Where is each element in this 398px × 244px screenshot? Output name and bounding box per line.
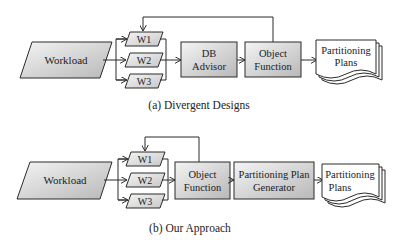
caption-b: (b) Our Approach: [149, 222, 231, 235]
w3-label: W3: [138, 196, 152, 207]
db-advisor-node: DB Advisor: [181, 42, 237, 77]
object-function-node: Object Function: [245, 42, 301, 77]
objfn-label-line1: Object: [259, 48, 287, 59]
objfn-label-line1: Object: [189, 169, 217, 180]
workload-node: Workload: [20, 42, 112, 78]
w2-node: W2: [125, 53, 163, 67]
caption-a: (a) Divergent Designs: [148, 99, 250, 112]
w1-node: W1: [126, 152, 165, 166]
diagram-our-approach: Workload W1 W2 W3 Object Function: [17, 137, 385, 235]
diagram-divergent-designs: Workload W1 W2 W3 DB Advisor: [20, 17, 382, 112]
w2-label: W2: [137, 55, 151, 66]
partitioning-plans-document: Partitioning Plans: [322, 164, 385, 207]
advisor-label-line2: Advisor: [192, 61, 226, 72]
workload-node: Workload: [17, 162, 112, 199]
w3-label: W3: [137, 76, 151, 87]
objfn-label-line2: Function: [184, 182, 222, 193]
w3-node: W3: [126, 194, 165, 208]
w1-label: W1: [138, 154, 152, 165]
partitioning-plans-document: Partitioning Plans: [316, 40, 382, 84]
advisor-label-line1: DB: [202, 48, 217, 59]
w1-label: W1: [137, 34, 151, 45]
approach-comparison-diagram: Workload W1 W2 W3 DB Advisor: [0, 0, 398, 244]
w1-node: W1: [125, 32, 163, 46]
objfn-label-line2: Function: [254, 61, 292, 72]
feedback-loop-arrow: [143, 17, 273, 42]
w2-label: W2: [138, 175, 152, 186]
object-function-node: Object Function: [175, 162, 230, 199]
plans-label-line1: Partitioning: [321, 45, 371, 56]
plans-label-line1: Partitioning: [325, 169, 375, 180]
plans-label-line2: Plans: [329, 182, 352, 193]
workload-label: Workload: [44, 54, 88, 66]
plan-generator-node: Partitioning Plan Generator: [234, 162, 314, 199]
plans-label-line2: Plans: [335, 57, 358, 68]
workload-label: Workload: [43, 174, 87, 186]
w3-node: W3: [125, 74, 163, 88]
generator-label-line1: Partitioning Plan: [239, 169, 311, 180]
generator-label-line2: Generator: [253, 182, 295, 193]
w2-node: W2: [126, 173, 165, 187]
